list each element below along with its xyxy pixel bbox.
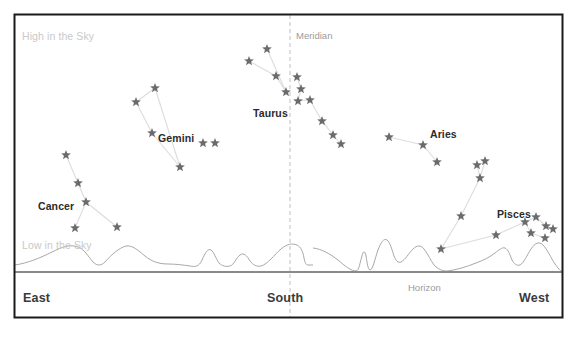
- high-in-sky-label: High in the Sky: [22, 31, 94, 42]
- direction-label-east: East: [23, 292, 50, 305]
- meridian-label: Meridian: [296, 31, 332, 41]
- constellation-label-aries: Aries: [430, 129, 457, 140]
- horizon-label: Horizon: [408, 283, 441, 293]
- direction-label-south: South: [267, 292, 303, 305]
- direction-label-west: West: [519, 292, 549, 305]
- constellation-label-taurus: Taurus: [253, 108, 288, 119]
- sky-map-canvas: [0, 0, 577, 338]
- low-in-sky-label: Low in the Sky: [22, 240, 92, 251]
- constellation-label-gemini: Gemini: [158, 133, 194, 144]
- constellation-label-pisces: Pisces: [497, 209, 531, 220]
- constellation-label-cancer: Cancer: [38, 201, 74, 212]
- star-chart: High in the Sky Low in the Sky Meridian …: [0, 0, 577, 338]
